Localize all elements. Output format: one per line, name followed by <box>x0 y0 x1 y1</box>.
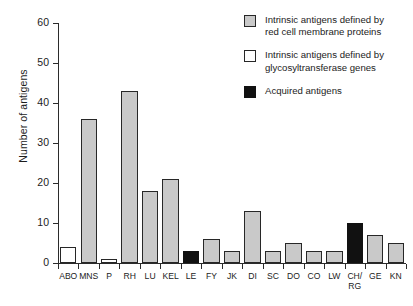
y-tick-20: 20 <box>53 183 58 184</box>
legend-swatch-black <box>244 86 256 98</box>
y-tick-label: 0 <box>43 256 49 268</box>
chart-legend: Intrinsic antigens defined by red cell m… <box>244 14 412 109</box>
x-tick <box>140 264 141 269</box>
x-tick <box>365 264 366 269</box>
y-tick-10: 10 <box>53 223 58 224</box>
bar-ge <box>367 235 383 263</box>
bar-lu <box>142 191 158 263</box>
bar-do <box>285 243 301 263</box>
y-axis-title: Number of antigens <box>17 31 29 201</box>
bar-jk <box>224 251 240 263</box>
x-tick <box>324 264 325 269</box>
x-tick <box>181 264 182 269</box>
bar-fy <box>203 239 219 263</box>
bar-le <box>183 251 199 263</box>
y-tick-50: 50 <box>53 63 58 64</box>
legend-entry-2: Intrinsic antigens defined by glycosyltr… <box>244 49 412 73</box>
x-tick <box>58 264 59 269</box>
y-tick-label: 40 <box>37 96 49 108</box>
x-tick <box>222 264 223 269</box>
legend-label: Intrinsic antigens defined by glycosyltr… <box>265 49 384 73</box>
x-tick <box>160 264 161 269</box>
x-tick <box>304 264 305 269</box>
y-tick-30: 30 <box>53 143 58 144</box>
x-tick <box>78 264 79 269</box>
bar-ch-rg <box>347 223 363 263</box>
legend-entry-1: Intrinsic antigens defined by red cell m… <box>244 14 412 38</box>
bar-lw <box>326 251 342 263</box>
x-tick <box>263 264 264 269</box>
legend-swatch-white <box>244 50 256 62</box>
bar-abo <box>60 247 76 263</box>
bar-di <box>244 211 260 263</box>
bar-co <box>306 251 322 263</box>
legend-label: Acquired antigens <box>265 85 342 97</box>
legend-entry-3: Acquired antigens <box>244 85 412 98</box>
y-tick-label: 50 <box>37 56 49 68</box>
y-tick-40: 40 <box>53 103 58 104</box>
bar-kn <box>388 243 404 263</box>
legend-swatch-gray <box>244 15 256 27</box>
bar-rh <box>121 91 137 263</box>
legend-label: Intrinsic antigens defined by red cell m… <box>265 14 384 38</box>
bar-chart-figure: Number of antigens 0102030405060 ABOMNSP… <box>0 0 413 306</box>
bar-p <box>101 259 117 263</box>
y-tick-label: 60 <box>37 16 49 28</box>
x-tick <box>386 264 387 269</box>
x-tick <box>201 264 202 269</box>
y-tick-label: 20 <box>37 176 49 188</box>
x-tick <box>242 264 243 269</box>
x-tick <box>406 264 407 269</box>
x-tick <box>283 264 284 269</box>
bar-kel <box>162 179 178 263</box>
x-axis-label-kn: KN <box>382 271 410 281</box>
y-tick-label: 30 <box>37 136 49 148</box>
x-tick <box>119 264 120 269</box>
y-tick-label: 10 <box>37 216 49 228</box>
bar-mns <box>81 119 97 263</box>
x-axis-line <box>58 263 406 264</box>
x-tick <box>345 264 346 269</box>
y-tick-60: 60 <box>53 23 58 24</box>
y-axis-line <box>58 23 59 264</box>
bar-sc <box>265 251 281 263</box>
x-tick <box>99 264 100 269</box>
